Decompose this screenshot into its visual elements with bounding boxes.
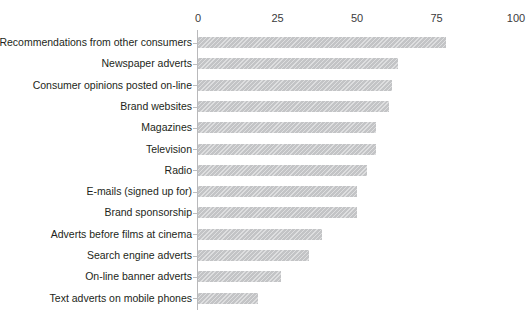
bar: [198, 144, 376, 155]
bar: [198, 186, 357, 197]
bar-row: Television: [0, 139, 531, 160]
bar-row: Text adverts on mobile phones: [0, 288, 531, 309]
top-cutoff-text-artifact: [8, 0, 128, 7]
bar: [198, 293, 258, 304]
bar-rows: Recommendations from other consumersNews…: [0, 30, 531, 314]
bar: [198, 207, 357, 218]
category-label: Radio: [165, 160, 192, 181]
bar: [198, 122, 376, 133]
category-label: On-line banner adverts: [85, 266, 192, 287]
category-label: Magazines: [141, 117, 192, 138]
bar: [198, 37, 446, 48]
category-label: Newspaper adverts: [102, 53, 192, 74]
x-axis-tick-label: 50: [351, 11, 363, 25]
bar: [198, 80, 392, 91]
bar: [198, 58, 398, 69]
bar: [198, 165, 367, 176]
x-axis-tick-label: 0: [195, 11, 201, 25]
bar: [198, 250, 309, 261]
category-label: Consumer opinions posted on-line: [33, 75, 192, 96]
bar-row: On-line banner adverts: [0, 266, 531, 287]
x-axis-tick-label: 100: [507, 11, 525, 25]
bar-chart: 0255075100 Recommendations from other co…: [0, 0, 531, 314]
bar-row: Adverts before films at cinema: [0, 224, 531, 245]
x-axis-tick-label: 25: [271, 11, 283, 25]
category-label: E-mails (signed up for): [86, 181, 192, 202]
category-label: Adverts before films at cinema: [51, 224, 192, 245]
bar-row: Brand sponsorship: [0, 202, 531, 223]
x-axis-tick-label: 75: [430, 11, 442, 25]
category-label: Search engine adverts: [87, 245, 192, 266]
x-axis-tick-labels: 0255075100: [0, 11, 531, 27]
bar-row: Brand websites: [0, 96, 531, 117]
category-label: Brand websites: [120, 96, 192, 117]
category-label: Text adverts on mobile phones: [50, 288, 192, 309]
category-label: Television: [146, 139, 192, 160]
bar-row: Newspaper adverts: [0, 53, 531, 74]
bar-row: Recommendations from other consumers: [0, 32, 531, 53]
bar-row: E-mails (signed up for): [0, 181, 531, 202]
bar: [198, 229, 322, 240]
category-label: Brand sponsorship: [104, 202, 192, 223]
category-label: Recommendations from other consumers: [0, 32, 192, 53]
bar-row: Consumer opinions posted on-line: [0, 75, 531, 96]
plot-area: Recommendations from other consumersNews…: [0, 30, 531, 314]
bar-row: Magazines: [0, 117, 531, 138]
bar: [198, 101, 389, 112]
bar: [198, 271, 281, 282]
bar-row: Radio: [0, 160, 531, 181]
bar-row: Search engine adverts: [0, 245, 531, 266]
